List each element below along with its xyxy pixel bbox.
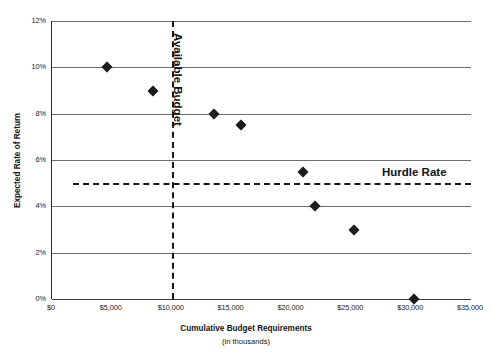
data-point bbox=[235, 120, 246, 131]
x-tick-label: $10,000 bbox=[143, 303, 199, 312]
y-tick-label: 12% bbox=[4, 17, 46, 25]
x-tick-label: $0 bbox=[23, 303, 79, 312]
data-point bbox=[147, 85, 158, 96]
y-tick-label: 4% bbox=[4, 202, 46, 210]
gridline-6pct bbox=[52, 160, 471, 161]
x-tick-label: $20,000 bbox=[262, 303, 318, 312]
y-tick-label: 10% bbox=[4, 63, 46, 71]
gridline-2pct bbox=[52, 253, 471, 254]
data-point bbox=[101, 62, 112, 73]
gridline-12pct bbox=[52, 21, 471, 22]
y-tick-label: 6% bbox=[4, 156, 46, 164]
x-tick-label: $25,000 bbox=[322, 303, 378, 312]
gridline-8pct bbox=[52, 114, 471, 115]
x-axis-title: Cumulative Budget Requirements bbox=[0, 324, 492, 333]
data-point bbox=[298, 166, 309, 177]
data-point bbox=[348, 224, 359, 235]
data-point bbox=[310, 201, 321, 212]
x-tick-label: $35,000 bbox=[442, 303, 492, 312]
gridline-4pct bbox=[52, 206, 471, 207]
y-tick-label: 0% bbox=[4, 295, 46, 303]
scatter-chart: Expected Rate of Return 0%2%4%6%8%10%12%… bbox=[0, 0, 492, 352]
x-axis-subtitle: (in thousands) bbox=[0, 337, 492, 346]
x-tick-label: $5,000 bbox=[83, 303, 139, 312]
y-tick-label: 8% bbox=[4, 110, 46, 118]
plot-area bbox=[51, 21, 470, 299]
y-tick-label: 2% bbox=[4, 249, 46, 257]
gridline-10pct bbox=[52, 67, 471, 68]
available-budget-label: Available Budget bbox=[172, 33, 184, 126]
x-tick-label: $15,000 bbox=[203, 303, 259, 312]
x-tick-label: $30,000 bbox=[382, 303, 438, 312]
hurdle-rate-label: Hurdle Rate bbox=[382, 166, 447, 178]
hurdle-rate-line bbox=[73, 183, 471, 185]
data-point bbox=[208, 108, 219, 119]
